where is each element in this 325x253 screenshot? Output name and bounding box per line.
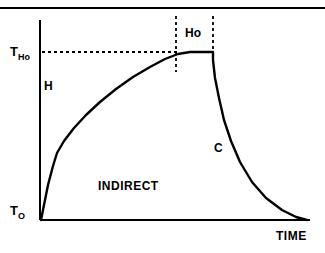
- thermal-cycle-chart: THo TO H Ho C INDIRECT TIME: [0, 0, 325, 253]
- t-ho-subscript: Ho: [18, 52, 30, 62]
- thermal-cycle-figure: THo TO H Ho C INDIRECT TIME: [0, 0, 325, 253]
- cooling-label: C: [214, 141, 223, 155]
- indirect-region-label: INDIRECT: [98, 179, 159, 193]
- heating-label: H: [44, 79, 53, 93]
- t-o-subscript: O: [18, 211, 25, 221]
- t-ho-base: T: [10, 44, 18, 59]
- chart-background: [0, 0, 325, 253]
- hold-label: Ho: [185, 26, 201, 40]
- time-axis-label: TIME: [276, 229, 307, 243]
- t-o-base: T: [10, 203, 18, 218]
